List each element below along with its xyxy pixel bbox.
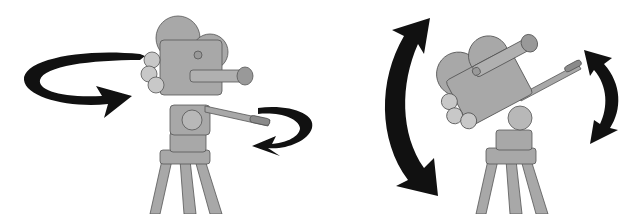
pan-head-icon (170, 105, 270, 135)
movie-camera-icon (141, 16, 253, 95)
tilt-arrow-small-icon (584, 50, 618, 144)
pan-arrow-icon (24, 52, 145, 118)
tilt-arrow-icon (385, 18, 438, 196)
movie-camera-icon (421, 15, 559, 137)
tilt-illustration (320, 0, 638, 214)
tripod-icon (150, 132, 222, 214)
pan-illustration (0, 0, 320, 214)
tripod-icon (476, 106, 548, 214)
rotate-arrow-icon (252, 107, 312, 156)
